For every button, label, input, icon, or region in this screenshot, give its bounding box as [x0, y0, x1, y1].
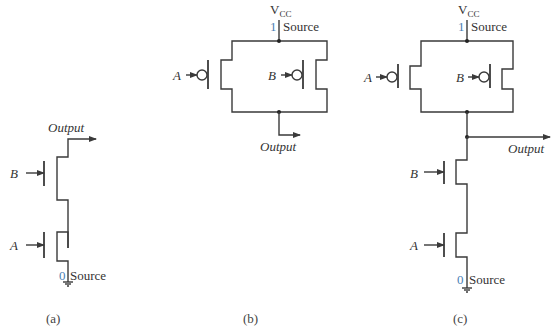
source-value: 0	[457, 272, 464, 287]
panel-b: VCC 1 Source A B Output (b)	[172, 2, 327, 326]
source-value: 1	[270, 19, 277, 34]
input-label-b: B	[456, 70, 464, 85]
source-label: Source	[469, 272, 505, 287]
source-label: Source	[283, 19, 319, 34]
caption-b: (b)	[243, 311, 258, 326]
input-label-a: A	[9, 238, 18, 253]
input-label-a-nmos: A	[409, 238, 418, 253]
junction-dot	[465, 39, 469, 43]
source-value: 0	[59, 268, 66, 283]
output-wire	[279, 112, 300, 135]
inversion-bubble-icon	[479, 72, 489, 82]
output-label: Output	[508, 141, 545, 156]
input-label-b: B	[10, 166, 18, 181]
output-label: Output	[48, 120, 85, 135]
inversion-bubble-icon	[292, 70, 302, 80]
junction-dot	[277, 39, 281, 43]
cmos-nand-diagram: Output B A 0 Source (a) VCC 1 Source A	[0, 0, 557, 334]
panel-a: Output B A 0 Source (a)	[9, 120, 106, 326]
caption-a: (a)	[46, 311, 60, 326]
output-label: Output	[260, 139, 297, 154]
input-label-a: A	[363, 70, 372, 85]
input-label-b: B	[268, 68, 276, 83]
nmos-series-wire	[456, 137, 467, 288]
vcc-label: VCC	[458, 2, 479, 19]
panel-c: VCC 1 Source A B Output B A 0	[363, 2, 550, 326]
inversion-bubble-icon	[197, 70, 207, 80]
source-value: 1	[458, 19, 465, 34]
caption-c: (c)	[453, 311, 467, 326]
vcc-label: VCC	[270, 2, 291, 19]
input-label-b-nmos: B	[410, 166, 418, 181]
source-label: Source	[70, 268, 106, 283]
source-label: Source	[471, 19, 507, 34]
inversion-bubble-icon	[387, 72, 397, 82]
input-label-a: A	[172, 68, 181, 83]
